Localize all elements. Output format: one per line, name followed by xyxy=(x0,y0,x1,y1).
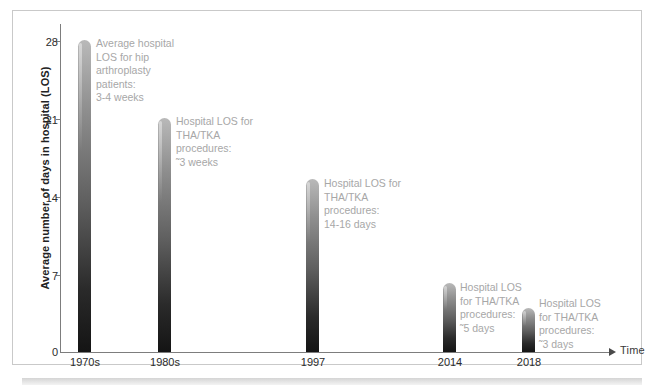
x-tick-label-1970s: 1970s xyxy=(70,356,100,368)
y-tick-label: 21 xyxy=(12,114,58,126)
y-tick-label: 14 xyxy=(12,192,58,204)
x-tick-label-2014: 2014 xyxy=(438,356,462,368)
bar-2014 xyxy=(443,283,456,352)
y-tick-label: 28 xyxy=(12,36,58,48)
annotation-1970s: Average hospital LOS for hip arthroplast… xyxy=(96,37,174,105)
y-axis-line xyxy=(60,24,61,353)
annotation-1980s: Hospital LOS for THA/TKA procedures: ˜3 … xyxy=(176,115,253,169)
plot-area: Time Average number of days in hospital … xyxy=(0,0,655,390)
y-axis-title: Average number of days in hospital (LOS) xyxy=(39,53,51,303)
bar-2018 xyxy=(522,308,535,352)
bar-1980s xyxy=(158,118,171,352)
bar-1970s xyxy=(78,40,91,352)
x-axis-title: Time xyxy=(620,344,645,356)
x-axis-arrow-icon xyxy=(609,348,616,356)
annotation-2018: Hospital LOS for THA/TKA procedures: ˜3 … xyxy=(539,297,601,351)
x-tick-label-2018: 2018 xyxy=(517,356,541,368)
x-tick-label-1997: 1997 xyxy=(301,356,325,368)
bar-1997 xyxy=(306,179,319,352)
figure-container: Time Average number of days in hospital … xyxy=(0,0,655,390)
annotation-2014: Hospital LOS for THA/TKA procedures: ˜5 … xyxy=(460,281,522,335)
x-axis-line xyxy=(60,352,612,353)
y-tick-label: 7 xyxy=(12,270,58,282)
y-tick-label: 0 xyxy=(12,346,58,358)
annotation-1997: Hospital LOS for THA/TKA procedures: 14-… xyxy=(324,177,401,231)
x-tick-label-1980s: 1980s xyxy=(150,356,180,368)
